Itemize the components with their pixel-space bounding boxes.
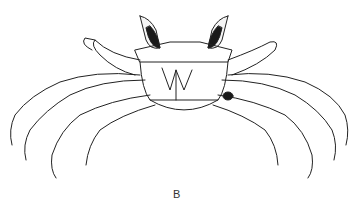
figure-label: B	[173, 188, 180, 200]
crab-illustration	[0, 0, 355, 218]
